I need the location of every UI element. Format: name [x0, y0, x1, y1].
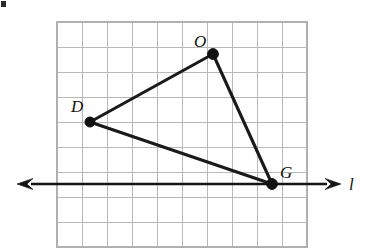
arrowhead-left-icon [17, 178, 33, 189]
vertex-label-g: G [280, 163, 292, 182]
vertex-dots [85, 49, 277, 190]
arrowhead-right-icon [325, 178, 341, 189]
triangle-side-gd [90, 122, 272, 184]
line-l [17, 178, 341, 189]
triangle-sides [90, 54, 272, 184]
vertex-dot-g [267, 179, 278, 190]
vertex-dot-d [85, 117, 95, 127]
triangle-side-og [213, 54, 272, 184]
page-corner-artifact [1, 1, 6, 7]
triangle-side-do [90, 54, 213, 122]
geometry-figure: DOGl [0, 0, 374, 249]
diagram-canvas: DOGl [0, 0, 374, 249]
coordinate-grid [57, 22, 307, 247]
vertex-label-o: O [194, 32, 206, 51]
vertex-label-d: D [70, 97, 84, 116]
line-label-l: l [349, 175, 354, 194]
vertex-dot-o [208, 49, 219, 60]
